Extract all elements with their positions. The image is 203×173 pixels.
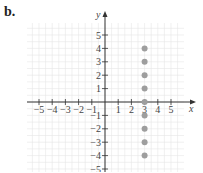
y-tick-label: 5	[96, 30, 101, 41]
x-axis-label: x	[188, 103, 194, 114]
y-tick-label: −1	[90, 110, 101, 121]
data-point	[142, 45, 148, 51]
y-tick-label: −5	[90, 164, 101, 173]
data-point	[142, 126, 148, 132]
x-tick-label: −3	[60, 104, 71, 115]
data-point	[142, 153, 148, 159]
y-tick-label: 2	[96, 70, 101, 81]
x-tick-label: −4	[47, 104, 58, 115]
ticks: −5−4−3−2−11234554321−1−2−3−4−5	[34, 30, 174, 173]
data-point	[142, 112, 148, 118]
x-tick-label: 5	[169, 104, 174, 115]
data-point	[142, 139, 148, 145]
x-tick-label: −5	[34, 104, 45, 115]
x-tick-label: 2	[129, 104, 134, 115]
y-tick-label: 1	[96, 83, 101, 94]
data-points	[142, 45, 148, 158]
y-tick-label: −3	[90, 137, 101, 148]
x-tick-label: −2	[73, 104, 84, 115]
y-tick-label: 4	[96, 43, 101, 54]
data-point	[142, 86, 148, 92]
y-axis-arrow-icon	[103, 11, 108, 17]
x-tick-label: 1	[116, 104, 121, 115]
data-point	[142, 99, 148, 105]
y-tick-label: −4	[90, 150, 101, 161]
data-point	[142, 72, 148, 78]
coordinate-plane: xy −5−4−3−2−11234554321−1−2−3−4−5	[0, 0, 203, 172]
data-point	[142, 59, 148, 65]
y-axis-label: y	[95, 9, 101, 20]
y-tick-label: 3	[96, 56, 101, 67]
x-tick-label: 4	[155, 104, 160, 115]
y-tick-label: −2	[90, 123, 101, 134]
